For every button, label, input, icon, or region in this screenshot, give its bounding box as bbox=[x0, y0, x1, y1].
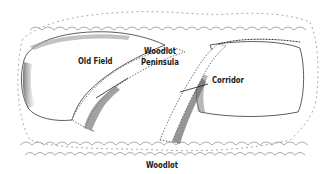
corridor-label: Corridor bbox=[212, 75, 244, 86]
woodlot-label: Woodlot bbox=[146, 160, 178, 171]
woodlot-peninsula-label-line1: Woodlot bbox=[144, 46, 176, 57]
woodlot-peninsula-label-line2: Peninsula bbox=[141, 57, 179, 68]
landscape-illustration bbox=[0, 0, 329, 174]
old-field-label: Old Field bbox=[78, 56, 113, 67]
